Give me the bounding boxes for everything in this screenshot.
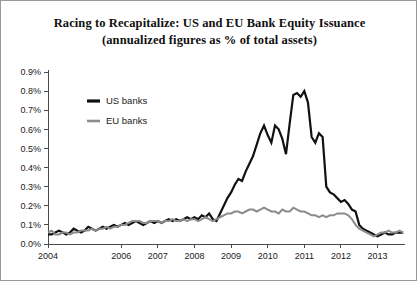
x-axis-tick-label: 2012 <box>331 251 351 261</box>
x-axis-tick-label: 2010 <box>258 251 278 261</box>
y-axis-tick-label: 0.0% <box>20 239 41 249</box>
data-series-group <box>48 91 403 236</box>
x-axis-tick-label: 2008 <box>184 251 204 261</box>
x-axis-tick-label: 2006 <box>111 251 131 261</box>
y-axis-tick-label: 0.4% <box>20 163 41 173</box>
x-axis-tick-label: 2004 <box>38 251 58 261</box>
y-axis-tick-label: 0.1% <box>20 220 41 230</box>
y-axis-tick-label: 0.8% <box>20 86 41 96</box>
y-axis-tick-group: 0.0%0.1%0.2%0.3%0.4%0.5%0.6%0.7%0.8%0.9% <box>20 67 48 249</box>
x-axis-tick-label: 2011 <box>295 251 314 261</box>
chart-plot-area: 0.0%0.1%0.2%0.3%0.4%0.5%0.6%0.7%0.8%0.9%… <box>1 1 417 281</box>
series-line-eu-banks <box>48 208 403 237</box>
chart-legend: US banksEU banks <box>87 95 147 126</box>
y-axis-tick-label: 0.5% <box>20 144 41 154</box>
legend-label-eu-banks: EU banks <box>106 115 147 126</box>
chart-figure: Racing to Recapitalize: US and EU Bank E… <box>0 0 417 281</box>
x-axis-tick-label: 2009 <box>221 251 241 261</box>
y-axis-tick-label: 0.7% <box>20 105 41 115</box>
y-axis-tick-label: 0.2% <box>20 201 41 211</box>
y-axis-tick-label: 0.3% <box>20 182 41 192</box>
y-axis-tick-label: 0.9% <box>20 67 41 77</box>
x-axis-tick-label: 2007 <box>148 251 168 261</box>
x-axis-tick-label: 2013 <box>368 251 388 261</box>
legend-label-us-banks: US banks <box>106 95 147 106</box>
x-axis-tick-group: 200420062007200820092010201120122013 <box>38 244 388 261</box>
y-axis-tick-label: 0.6% <box>20 125 41 135</box>
